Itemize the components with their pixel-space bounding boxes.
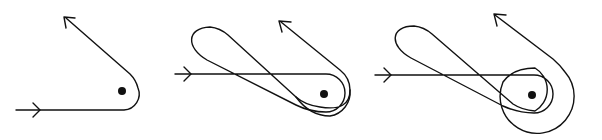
panel-1 (16, 17, 139, 117)
obstacle-dot (528, 91, 536, 99)
panel-2 (175, 21, 350, 116)
trajectory-path (175, 22, 350, 112)
diagram-figure (0, 0, 602, 140)
trajectory-path (375, 15, 574, 133)
obstacle-dot (118, 87, 126, 95)
obstacle-dot (320, 90, 328, 98)
arrowhead-up-left-icon (64, 17, 75, 28)
panel-3 (375, 14, 574, 133)
trajectory-path (16, 18, 139, 110)
